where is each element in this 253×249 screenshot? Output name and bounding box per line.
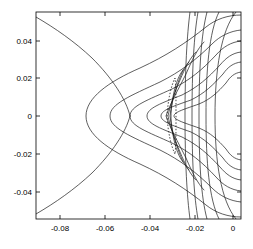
- x-tick-label: -0.08: [51, 224, 70, 233]
- contour-plot-figure: -0.08 -0.06 -0.04 -0.02 0 0.04 0.02 0 -0…: [0, 0, 253, 249]
- x-tick-label: -0.06: [96, 224, 115, 233]
- y-tick-label: -0.02: [14, 150, 33, 159]
- contour-plot-canvas: -0.08 -0.06 -0.04 -0.02 0 0.04 0.02 0 -0…: [0, 0, 253, 249]
- y-tick-label: 0.02: [16, 74, 32, 83]
- x-tick-label: -0.02: [186, 224, 205, 233]
- x-tick-label: 0: [231, 224, 236, 233]
- y-tick-label: -0.04: [14, 188, 33, 197]
- y-tick-label: 0: [28, 112, 33, 121]
- x-tick-label: -0.04: [141, 224, 160, 233]
- y-tick-label: 0.04: [16, 37, 32, 46]
